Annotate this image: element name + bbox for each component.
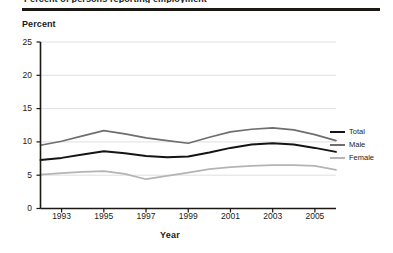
y-tick-label: 15	[8, 103, 32, 113]
x-tick-label: 2001	[213, 211, 247, 221]
series-lines	[41, 128, 337, 179]
chart-legend: TotalMaleFemale	[330, 126, 374, 165]
series-line-female	[41, 165, 337, 179]
legend-item-male[interactable]: Male	[330, 139, 374, 150]
y-tick-label: 0	[8, 203, 32, 213]
series-line-total	[41, 143, 337, 160]
x-tick-label: 2005	[298, 211, 332, 221]
legend-swatch-icon	[330, 131, 345, 133]
x-tick-label: 1997	[129, 211, 163, 221]
y-tick-label: 10	[8, 136, 32, 146]
legend-swatch-icon	[330, 157, 345, 159]
x-tick-label: 1995	[87, 211, 121, 221]
legend-item-total[interactable]: Total	[330, 126, 374, 137]
legend-item-label: Female	[349, 154, 374, 162]
legend-item-label: Total	[349, 128, 365, 136]
axis-lines	[37, 42, 337, 209]
series-line-male	[41, 128, 337, 145]
y-tick-label: 25	[8, 37, 32, 47]
y-tick-label: 5	[8, 170, 32, 180]
y-tick-label: 20	[8, 70, 32, 80]
chart-figure: Percent of persons reporting employment …	[0, 0, 393, 253]
x-axis-title: Year	[0, 230, 340, 240]
legend-item-label: Male	[349, 141, 365, 149]
x-tick-label: 1993	[45, 211, 79, 221]
x-tick-label: 2003	[256, 211, 290, 221]
legend-item-female[interactable]: Female	[330, 152, 374, 163]
x-tick-label: 1999	[171, 211, 205, 221]
legend-swatch-icon	[330, 144, 345, 146]
